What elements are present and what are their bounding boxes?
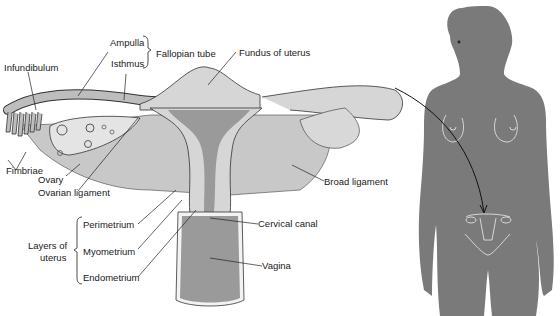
- label-fallopian-tube: Fallopian tube: [156, 48, 216, 59]
- label-broad-ligament: Broad ligament: [324, 176, 388, 187]
- label-ovary: Ovary: [38, 174, 63, 185]
- label-cervical-canal: Cervical canal: [258, 218, 318, 229]
- label-infundibulum: Infundibulum: [4, 62, 58, 73]
- body-silhouette: [395, 6, 554, 316]
- layers-brace: [74, 217, 82, 284]
- label-isthmus: Isthmus: [111, 58, 144, 69]
- label-myometrium: Myometrium: [83, 246, 135, 257]
- female-reproductive-diagram: Ampulla Isthmus Fallopian tube Infundibu…: [0, 0, 560, 316]
- label-ampulla: Ampulla: [110, 37, 144, 48]
- label-ovarian-ligament: Ovarian ligament: [38, 187, 110, 198]
- label-layers-of-uterus-1: Layers of: [28, 240, 67, 251]
- uterus-fundus: [140, 67, 260, 110]
- label-perimetrium: Perimetrium: [83, 219, 134, 230]
- label-endometrium: Endometrium: [83, 272, 140, 283]
- label-fundus: Fundus of uterus: [239, 47, 310, 58]
- label-layers-of-uterus-2: uterus: [40, 252, 66, 263]
- label-vagina: Vagina: [262, 260, 291, 271]
